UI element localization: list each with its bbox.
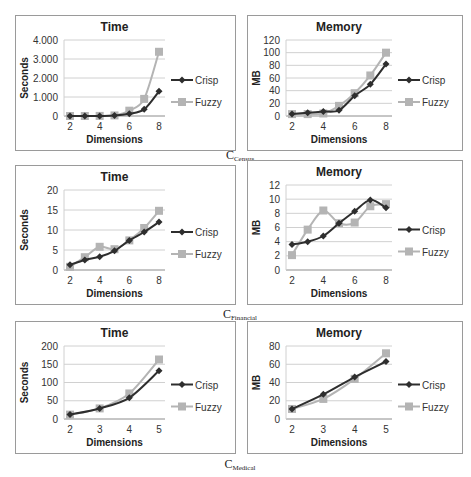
square-marker	[140, 95, 148, 103]
x-tick-label: 4	[97, 121, 103, 132]
series-line-fuzzy	[70, 360, 159, 415]
legend-label: Crisp	[422, 225, 446, 236]
chart-title: Time	[101, 326, 129, 340]
chart-title: Memory	[316, 165, 362, 179]
x-tick-label: 4	[321, 121, 327, 132]
caption-financial: CFinancial	[190, 307, 290, 322]
square-marker	[382, 349, 390, 357]
diamond-marker	[96, 253, 103, 260]
legend-label: Crisp	[195, 227, 219, 238]
chart-title: Memory	[316, 326, 362, 340]
y-tick-label: 150	[41, 359, 58, 370]
y-tick-label: 20	[47, 185, 59, 196]
square-marker	[178, 250, 186, 258]
y-axis-label: MB	[251, 220, 262, 236]
cropped-caption-remnant	[40, 0, 180, 4]
x-tick-label: 6	[352, 121, 358, 132]
x-tick-label: 2	[67, 121, 73, 132]
y-tick-label: 50	[47, 395, 59, 406]
y-tick-label: 12	[269, 180, 281, 191]
chart-svg: Time051015202468DimensionsSecondsCrispFu…	[16, 166, 235, 304]
legend-item-crisp: Crisp	[171, 227, 219, 238]
y-tick-label: 100	[41, 377, 58, 388]
y-axis-label: Seconds	[19, 361, 30, 403]
x-axis-label: Dimensions	[86, 134, 143, 145]
y-axis-label: Seconds	[19, 57, 30, 99]
square-marker	[96, 243, 104, 251]
legend-label: Fuzzy	[195, 249, 222, 260]
legend-item-fuzzy: Fuzzy	[171, 402, 222, 413]
x-tick-label: 3	[97, 424, 103, 435]
chart-title: Time	[101, 20, 129, 34]
x-tick-label: 6	[127, 275, 133, 286]
diamond-marker	[406, 226, 413, 233]
chart-svg: Memory0246810122468DimensionsMBCrispFuzz…	[248, 161, 462, 304]
x-tick-label: 2	[67, 424, 73, 435]
x-tick-label: 6	[127, 121, 133, 132]
legend-item-fuzzy: Fuzzy	[171, 97, 222, 108]
legend-label: Fuzzy	[195, 402, 222, 413]
square-marker	[178, 403, 186, 411]
square-marker	[366, 71, 374, 79]
legend-label: Fuzzy	[422, 402, 449, 413]
diamond-marker	[179, 77, 186, 84]
x-axis-label: Dimensions	[86, 288, 143, 299]
y-tick-label: 60	[269, 73, 281, 84]
y-axis-label: MB	[251, 70, 262, 86]
legend-label: Fuzzy	[195, 97, 222, 108]
series-line-fuzzy	[70, 52, 159, 116]
y-tick-label: 2.000	[33, 73, 58, 84]
y-axis-label: MB	[251, 375, 262, 391]
y-tick-label: 0	[274, 111, 280, 122]
chart-svg: Time0501001502002345DimensionsSecondsCri…	[16, 322, 235, 453]
y-axis-label: Seconds	[19, 209, 30, 251]
chart-census-time: Time01.0002.0003.0004.0002468DimensionsS…	[15, 15, 236, 151]
y-tick-label: 40	[269, 85, 281, 96]
x-axis-label: Dimensions	[311, 437, 368, 448]
square-marker	[382, 49, 390, 57]
y-tick-label: 3.000	[33, 54, 58, 65]
y-tick-label: 40	[269, 377, 281, 388]
y-tick-label: 0	[52, 414, 58, 425]
series-line-crisp	[70, 371, 159, 415]
chart-census-memory: Memory0204060801001202468DimensionsMBCri…	[247, 15, 463, 151]
square-marker	[288, 251, 296, 259]
chart-title: Time	[101, 170, 129, 184]
diamond-marker	[179, 381, 186, 388]
x-tick-label: 8	[383, 275, 389, 286]
diamond-marker	[179, 229, 186, 236]
y-tick-label: 5	[52, 245, 58, 256]
x-tick-label: 4	[97, 275, 103, 286]
legend-item-fuzzy: Fuzzy	[171, 249, 222, 260]
legend-item-fuzzy: Fuzzy	[398, 402, 449, 413]
x-tick-label: 4	[352, 424, 358, 435]
y-tick-label: 100	[263, 47, 280, 58]
legend-item-fuzzy: Fuzzy	[398, 247, 449, 258]
y-tick-label: 0	[52, 265, 58, 276]
square-marker	[155, 356, 163, 364]
square-marker	[405, 403, 413, 411]
y-tick-label: 10	[47, 225, 59, 236]
y-tick-label: 20	[269, 98, 281, 109]
legend-item-fuzzy: Fuzzy	[398, 97, 449, 108]
x-tick-label: 5	[383, 424, 389, 435]
x-tick-label: 6	[352, 275, 358, 286]
x-tick-label: 8	[156, 121, 162, 132]
chart-financial-time: Time051015202468DimensionsSecondsCrispFu…	[15, 165, 236, 305]
y-tick-label: 0	[274, 414, 280, 425]
y-tick-label: 10	[269, 194, 281, 205]
y-tick-label: 0	[52, 111, 58, 122]
x-tick-label: 4	[127, 424, 133, 435]
y-tick-label: 1.000	[33, 92, 58, 103]
y-tick-label: 2	[274, 250, 280, 261]
x-tick-label: 8	[383, 121, 389, 132]
chart-financial-memory: Memory0246810122468DimensionsMBCrispFuzz…	[247, 160, 463, 305]
y-tick-label: 200	[41, 341, 58, 352]
x-axis-label: Dimensions	[311, 288, 368, 299]
square-marker	[304, 226, 312, 234]
legend-item-crisp: Crisp	[398, 225, 446, 236]
square-marker	[319, 207, 327, 215]
x-tick-label: 3	[321, 424, 327, 435]
legend-item-crisp: Crisp	[398, 380, 446, 391]
y-tick-label: 80	[269, 60, 281, 71]
